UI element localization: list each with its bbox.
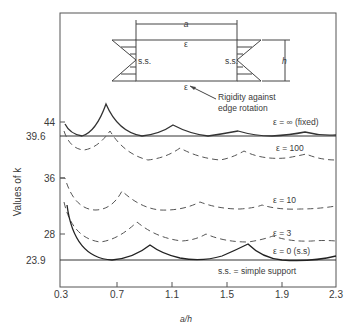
ytick-39-6: 39.6: [26, 131, 46, 142]
edge-bottom-eps: ε: [184, 82, 188, 92]
x-axis-label: a/h: [180, 314, 192, 324]
label-eps-100: ε = 100: [276, 143, 304, 153]
label-eps-3: ε = 3: [273, 228, 291, 238]
xtick-1-1: 1.1: [165, 289, 179, 300]
dimension-h-label: h: [282, 56, 287, 66]
label-eps-inf: ε = ∞ (fixed): [273, 117, 319, 127]
ytick-36: 36: [44, 173, 56, 184]
annotation-line-2: edge rotation: [218, 103, 268, 113]
ytick-44: 44: [44, 117, 56, 128]
label-eps-10: ε = 10: [273, 195, 296, 205]
edge-top-eps: ε: [184, 39, 188, 49]
dimension-a-label: a: [184, 19, 189, 29]
xtick-0-3: 0.3: [54, 289, 68, 300]
ytick-23-9: 23.9: [26, 255, 46, 266]
footnote-simple-support: s.s. = simple support: [218, 266, 297, 276]
xtick-0-7: 0.7: [110, 289, 124, 300]
y-axis-label: Values of k: [12, 167, 23, 217]
support-right-label: s.s.: [225, 56, 238, 66]
label-eps-0: ε = 0 (s.s): [273, 246, 310, 256]
annotation-line-1: Rigidity against: [218, 92, 276, 102]
xtick-1-9: 1.9: [275, 289, 289, 300]
xtick-1-5: 1.5: [220, 289, 234, 300]
ytick-28: 28: [44, 229, 56, 240]
buckling-chart: 44 39.6 36 28 23.9 Values of k 0.3 0.7 1…: [0, 0, 359, 332]
support-left-label: s.s.: [138, 56, 151, 66]
arrow-head-icon: [190, 86, 196, 90]
x-axis: [117, 282, 282, 287]
xtick-2-3: 2.3: [329, 289, 343, 300]
